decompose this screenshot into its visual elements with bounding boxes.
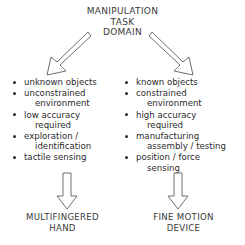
list-item-line: required bbox=[136, 120, 243, 130]
list-item-line: exploration / bbox=[24, 131, 121, 141]
bullet-icon bbox=[125, 156, 128, 159]
arrow-down-icon bbox=[55, 172, 79, 214]
list-item-line: environment bbox=[136, 98, 243, 108]
right-branch-list: known objects constrained environment hi… bbox=[125, 77, 243, 174]
title-line-3: DOMAIN bbox=[0, 27, 245, 38]
arrow-down-left-icon bbox=[44, 30, 92, 82]
list-item: low accuracy required bbox=[13, 110, 121, 130]
title-line-1: MANIPULATION bbox=[0, 6, 245, 17]
right-outcome-label: FINE MOTION DEVICE bbox=[124, 212, 243, 233]
list-item: unconstrained environment bbox=[13, 88, 121, 108]
list-item: high accuracy required bbox=[125, 110, 243, 130]
bullet-icon bbox=[13, 156, 16, 159]
title-line-2: TASK bbox=[0, 17, 245, 28]
arrow-down-right-icon bbox=[148, 30, 196, 82]
bullet-icon bbox=[125, 135, 128, 138]
list-item: unknown objects bbox=[13, 77, 121, 87]
list-item: position / force sensing bbox=[125, 152, 243, 172]
list-item-line: identification bbox=[24, 141, 121, 151]
outcome-line: DEVICE bbox=[124, 223, 243, 234]
bullet-icon bbox=[13, 135, 16, 138]
list-item-line: position / force bbox=[136, 152, 243, 162]
arrow-down-icon bbox=[166, 172, 190, 214]
list-item: exploration / identification bbox=[13, 131, 121, 151]
list-item: tactile sensing bbox=[13, 152, 121, 162]
diagram-canvas: MANIPULATION TASK DOMAIN unknown objects… bbox=[0, 0, 245, 245]
list-item-line: constrained bbox=[136, 88, 243, 98]
bullet-icon bbox=[13, 92, 16, 95]
bullet-icon bbox=[125, 113, 128, 116]
page-title: MANIPULATION TASK DOMAIN bbox=[0, 6, 245, 38]
list-item-line: high accuracy bbox=[136, 110, 243, 120]
list-item-line: unknown objects bbox=[24, 77, 121, 87]
bullet-icon bbox=[125, 92, 128, 95]
list-item-line: assembly / testing bbox=[136, 141, 243, 151]
list-item-line: unconstrained bbox=[24, 88, 121, 98]
left-branch-list: unknown objects unconstrained environmen… bbox=[13, 77, 121, 164]
bullet-icon bbox=[13, 113, 16, 116]
list-item-line: required bbox=[24, 120, 121, 130]
outcome-line: HAND bbox=[3, 223, 122, 234]
list-item: constrained environment bbox=[125, 88, 243, 108]
list-item-line: known objects bbox=[136, 77, 243, 87]
list-item: manufacturing assembly / testing bbox=[125, 131, 243, 151]
list-item-line: manufacturing bbox=[136, 131, 243, 141]
left-outcome-label: MULTIFINGERED HAND bbox=[3, 212, 122, 233]
list-item-line: tactile sensing bbox=[24, 152, 121, 162]
bullet-icon bbox=[125, 81, 128, 84]
outcome-line: MULTIFINGERED bbox=[3, 212, 122, 223]
list-item-line: low accuracy bbox=[24, 110, 121, 120]
list-item: known objects bbox=[125, 77, 243, 87]
list-item-line: environment bbox=[24, 98, 121, 108]
outcome-line: FINE MOTION bbox=[124, 212, 243, 223]
bullet-icon bbox=[13, 81, 16, 84]
